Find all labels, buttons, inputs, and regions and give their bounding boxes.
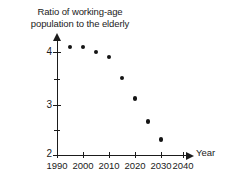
y-tick-3 xyxy=(53,105,61,106)
y-tick-label-2: 2 xyxy=(38,149,52,159)
x-tick-2010 xyxy=(109,152,110,158)
data-point xyxy=(81,45,85,49)
x-axis-title: Year xyxy=(196,147,215,158)
data-point xyxy=(107,55,111,59)
x-tick-2040 xyxy=(183,152,184,158)
x-tick-1990 xyxy=(57,152,58,158)
data-point xyxy=(120,76,124,80)
y-tick-2point5 xyxy=(54,130,60,131)
y-tick-3point5 xyxy=(54,79,60,80)
x-tick-label-2040: 2040 xyxy=(166,160,200,171)
chart-title: Ratio of working-age population to the e… xyxy=(10,6,150,29)
data-point xyxy=(146,119,150,123)
x-tick-2020 xyxy=(135,152,136,158)
x-tick-2030 xyxy=(161,152,162,158)
x-axis-line xyxy=(57,155,189,156)
data-point xyxy=(68,45,72,49)
y-tick-4 xyxy=(53,52,61,53)
y-axis-arrow-icon xyxy=(53,33,61,41)
data-point xyxy=(133,96,137,100)
x-axis-arrow-icon xyxy=(186,152,194,160)
data-point xyxy=(159,137,163,141)
ratio-working-age-population-chart: Ratio of working-age population to the e… xyxy=(0,0,226,179)
y-tick-label-3: 3 xyxy=(38,100,52,110)
data-point xyxy=(94,50,98,54)
x-tick-2000 xyxy=(83,152,84,158)
y-axis-line xyxy=(57,40,58,156)
y-tick-label-4: 4 xyxy=(38,47,52,57)
